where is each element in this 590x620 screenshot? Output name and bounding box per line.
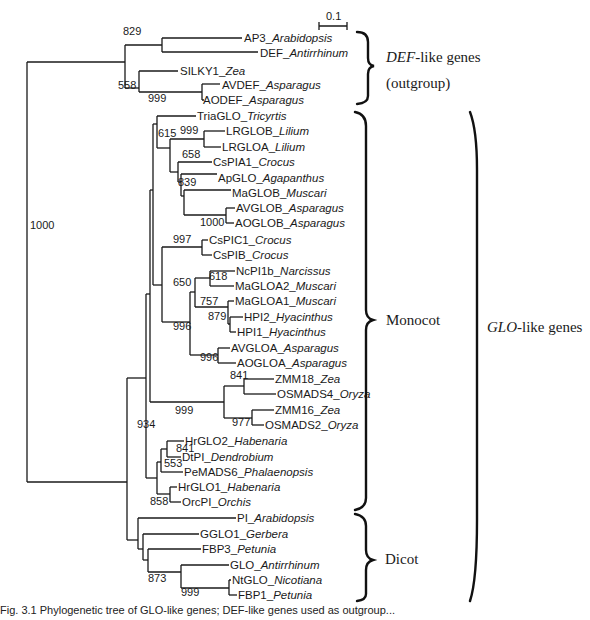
species-name: Phalaenopsis bbox=[244, 466, 313, 478]
def-brace bbox=[357, 32, 374, 104]
figure-caption: Fig. 3.1 Phylogenetic tree of GLO-like g… bbox=[0, 604, 590, 616]
gene-name: GGLO1_ bbox=[200, 528, 247, 540]
leaf-label: OSMADS4_Oryza bbox=[277, 388, 370, 400]
leaf-label: PeMADS6_Phalaenopsis bbox=[184, 466, 313, 478]
monocot-label: Monocot bbox=[386, 312, 441, 328]
species-name: Zea bbox=[319, 373, 340, 385]
bootstrap-value: 977 bbox=[232, 416, 250, 428]
species-name: Asparagus bbox=[265, 79, 321, 91]
gene-name: HrGLO1_ bbox=[178, 481, 228, 493]
phylogenetic-tree: 0.1 bbox=[0, 0, 590, 620]
species-name: Asparagus bbox=[291, 357, 347, 369]
species-name: Habenaria bbox=[227, 481, 280, 493]
leaf-label: AP3_Arabidopsis bbox=[244, 32, 332, 44]
leaf-label: HPI2_Hyacinthus bbox=[244, 311, 333, 323]
species-name: Orchis bbox=[218, 496, 251, 508]
leaf-label: TriaGLO_Tricyrtis bbox=[197, 110, 287, 122]
leaf-label: HrGLO2_Habenaria bbox=[185, 435, 287, 447]
scale-bar-label: 0.1 bbox=[326, 10, 341, 22]
gene-name: LRGLOA_ bbox=[222, 141, 276, 153]
leaf-label: CsPIC1_Crocus bbox=[209, 234, 292, 246]
bootstrap-value: 999 bbox=[148, 92, 166, 104]
species-name: Habenaria bbox=[234, 435, 287, 447]
bootstrap-value: 839 bbox=[178, 176, 196, 188]
gene-name: NcPI1b_ bbox=[236, 265, 281, 277]
scale-bar: 0.1 bbox=[319, 10, 347, 30]
gene-name: OSMADS4_ bbox=[277, 388, 340, 400]
species-name: Tricyrtis bbox=[247, 110, 287, 122]
gene-name: NtGLO_ bbox=[232, 574, 275, 586]
gene-name: GLO_ bbox=[230, 559, 261, 571]
leaf-label: DtPI_Dendrobium bbox=[182, 451, 274, 463]
species-name: Crocus bbox=[258, 156, 295, 168]
leaf-label: LRGLOB_Lilium bbox=[226, 125, 310, 137]
bootstrap-value: 999 bbox=[181, 586, 199, 598]
bootstrap-value: 999 bbox=[180, 124, 198, 136]
leaf-label: MaGLOB_Muscari bbox=[232, 187, 327, 199]
leaf-label: LRGLOA_Lilium bbox=[222, 141, 306, 153]
leaf-label: AOGLOA_Asparagus bbox=[237, 357, 347, 369]
gene-name: ZMM18_ bbox=[275, 373, 321, 385]
gene-name: TriaGLO_ bbox=[197, 110, 248, 122]
leaf-label: OrcPI_Orchis bbox=[182, 496, 251, 508]
leaf-label: GGLO1_Gerbera bbox=[200, 528, 288, 540]
gene-name: DEF_ bbox=[260, 47, 290, 59]
species-name: Muscari bbox=[286, 187, 327, 199]
gene-name: SILKY1_ bbox=[180, 65, 226, 77]
species-name: Crocus bbox=[255, 234, 292, 246]
gene-name: AVGLOA_ bbox=[231, 342, 284, 354]
glo-brace bbox=[470, 112, 477, 601]
leaf-label: HrGLO1_Habenaria bbox=[178, 481, 280, 493]
species-name: Asparagus bbox=[283, 342, 339, 354]
glo-group-label: GLO-like genes bbox=[487, 319, 583, 335]
gene-name: MaGLOB_ bbox=[232, 187, 287, 199]
leaf-label: FBP1_Petunia bbox=[238, 589, 312, 601]
leaf-labels: AP3_ArabidopsisDEF_AntirrhinumSILKY1_Zea… bbox=[178, 32, 370, 601]
dicot-brace bbox=[355, 514, 373, 601]
species-name: Oryza bbox=[328, 419, 359, 431]
leaf-label: AVDEF_Asparagus bbox=[222, 79, 321, 91]
bootstrap-value: 618 bbox=[209, 270, 227, 282]
gene-name: MaGLOA2_ bbox=[235, 280, 296, 292]
species-name: Hyacinthus bbox=[276, 311, 333, 323]
bootstrap-value: 757 bbox=[200, 295, 218, 307]
bootstrap-value: 650 bbox=[173, 276, 191, 288]
species-name: Antirrhinum bbox=[288, 47, 348, 59]
leaf-label: ZMM18_Zea bbox=[275, 373, 340, 385]
gene-name: PI_ bbox=[237, 512, 255, 524]
species-name: Dendrobium bbox=[211, 451, 274, 463]
leaf-label: AVGLOA_Asparagus bbox=[231, 342, 339, 354]
bootstrap-value: 1000 bbox=[30, 219, 54, 231]
leaf-label: FBP3_Petunia bbox=[202, 543, 276, 555]
bootstrap-value: 829 bbox=[123, 25, 141, 37]
gene-name: FBP1_ bbox=[238, 589, 274, 601]
species-name: Arabidopsis bbox=[253, 512, 314, 524]
species-name: Muscari bbox=[296, 295, 337, 307]
def-group-label: DEF-like genes bbox=[385, 49, 481, 65]
species-name: Asparagus bbox=[289, 217, 345, 229]
monocot-brace bbox=[355, 112, 373, 510]
leaf-label: AODEF_Asparagus bbox=[203, 94, 304, 106]
bootstrap-value: 658 bbox=[182, 148, 200, 160]
species-name: Antirrhinum bbox=[260, 559, 320, 571]
leaf-label: ApGLO_Agapanthus bbox=[218, 172, 324, 184]
leaf-label: CsPIB_Crocus bbox=[213, 249, 289, 261]
bootstrap-value: 553 bbox=[164, 457, 182, 469]
species-name: Crocus bbox=[252, 249, 289, 261]
species-name: Agapanthus bbox=[262, 172, 325, 184]
bootstrap-value: 996 bbox=[200, 351, 218, 363]
species-name: Gerbera bbox=[246, 528, 288, 540]
bootstrap-value: 873 bbox=[148, 572, 166, 584]
species-name: Petunia bbox=[273, 589, 312, 601]
species-name: Petunia bbox=[237, 543, 276, 555]
gene-name: AOGLOB_ bbox=[235, 217, 291, 229]
species-name: Asparagus bbox=[248, 94, 304, 106]
bootstrap-value: 934 bbox=[137, 418, 155, 430]
gene-name: CsPIA1_ bbox=[213, 156, 259, 168]
species-name: Nicotiana bbox=[274, 574, 322, 586]
leaf-label: AOGLOB_Asparagus bbox=[235, 217, 345, 229]
species-name: Arabidopsis bbox=[271, 32, 332, 44]
leaf-label: AVGLOB_Asparagus bbox=[236, 202, 344, 214]
gene-name: ZMM16_ bbox=[275, 404, 321, 416]
group-labels: DEF-like genes (outgroup) Monocot GLO-li… bbox=[385, 49, 583, 567]
